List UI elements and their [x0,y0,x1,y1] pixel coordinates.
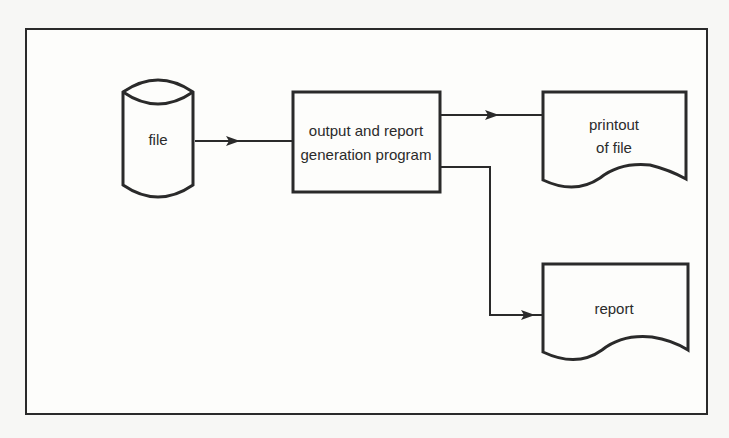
node-program: output and report generation program [293,92,440,192]
node-program-line1: output and report [309,122,424,139]
node-printout-line2: of file [596,139,632,156]
node-file: file [123,80,193,197]
node-file-label: file [148,131,167,148]
node-printout-line1: printout [589,116,640,133]
node-program-line2: generation program [301,146,432,163]
edge-program-report [441,167,543,315]
node-report: report [543,264,688,360]
flowchart: file output and report generation progra… [0,0,729,438]
node-report-label: report [594,300,634,317]
node-printout: printout of file [543,92,686,187]
